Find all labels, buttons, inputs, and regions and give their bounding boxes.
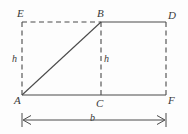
vertex-label-A: A <box>14 95 21 106</box>
vertex-label-B: B <box>97 8 104 19</box>
base-label: b <box>90 113 95 123</box>
vertex-label-C: C <box>96 98 103 109</box>
vertex-label-F: F <box>168 95 175 106</box>
height-label-left: h <box>12 54 17 64</box>
geometry-figure: E B D A C F h h b <box>0 0 188 134</box>
segment-AB <box>22 22 101 95</box>
vertex-label-E: E <box>17 8 24 19</box>
vertex-label-D: D <box>168 10 176 21</box>
height-label-middle: h <box>104 54 109 64</box>
